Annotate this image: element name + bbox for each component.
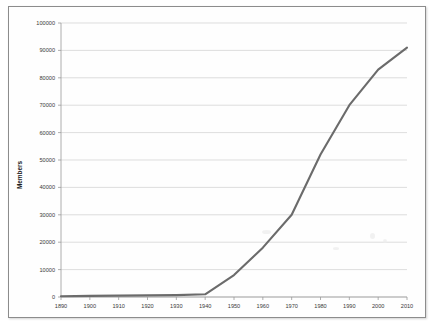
x-tick-label: 1890 xyxy=(55,303,67,309)
x-tick-label: 1910 xyxy=(112,303,124,309)
x-tick-label: 1930 xyxy=(170,303,182,309)
x-tick-label: 2010 xyxy=(401,303,413,309)
data-series-group xyxy=(61,48,407,297)
y-axis-title-label: Members xyxy=(16,161,23,190)
gridlines-group xyxy=(61,23,407,297)
x-tick-label: 1900 xyxy=(84,303,96,309)
x-tick-label: 1940 xyxy=(199,303,211,309)
axes-group xyxy=(58,23,407,300)
y-axis-title: Members xyxy=(16,161,23,190)
y-tick-label: 80000 xyxy=(39,75,55,81)
x-tick-label: 1990 xyxy=(343,303,355,309)
chart-figure: 1890190019101920193019401950196019701980… xyxy=(0,0,435,327)
x-tick-label: 1920 xyxy=(141,303,153,309)
y-axis-tick-labels: 0100002000030000400005000060000700008000… xyxy=(36,20,55,300)
y-tick-label: 70000 xyxy=(39,102,55,108)
paper-artifact-speck xyxy=(383,239,387,243)
y-tick-label: 0 xyxy=(52,294,55,300)
x-tick-label: 1950 xyxy=(228,303,240,309)
y-tick-label: 20000 xyxy=(39,239,55,245)
y-tick-label: 40000 xyxy=(39,184,55,190)
x-tick-label: 2000 xyxy=(372,303,384,309)
series-line-members xyxy=(61,48,407,297)
x-tick-label: 1960 xyxy=(257,303,269,309)
y-tick-label: 50000 xyxy=(39,157,55,163)
y-tick-label: 90000 xyxy=(39,47,55,53)
plot-wrapper: 1890190019101920193019401950196019701980… xyxy=(0,0,435,327)
y-tick-label: 60000 xyxy=(39,130,55,136)
x-axis-tick-labels: 1890190019101920193019401950196019701980… xyxy=(55,303,413,309)
y-tick-label: 30000 xyxy=(39,212,55,218)
paper-artifact-speck xyxy=(370,233,375,239)
line-chart-svg: 1890190019101920193019401950196019701980… xyxy=(0,0,435,327)
y-tick-label: 10000 xyxy=(39,267,55,273)
y-tick-label: 100000 xyxy=(36,20,55,26)
x-tick-label: 1980 xyxy=(314,303,326,309)
x-tick-label: 1970 xyxy=(285,303,297,309)
paper-artifact-speck xyxy=(262,230,271,234)
paper-artifact-speck xyxy=(333,247,339,250)
